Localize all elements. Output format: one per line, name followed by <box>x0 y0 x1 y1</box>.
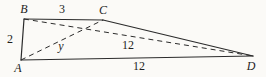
vertex-label-d: D <box>246 59 256 73</box>
diagonal-bd-label: 12 <box>122 38 134 52</box>
quadrilateral-diagram: B C A D 3 2 12 y 12 <box>0 0 266 77</box>
vertex-label-a: A <box>13 61 22 75</box>
vertex-label-c: C <box>99 3 108 17</box>
vertex-label-b: B <box>20 2 28 16</box>
diagonal-ac-label: y <box>57 39 64 53</box>
geometry-figure: B C A D 3 2 12 y 12 <box>0 0 266 77</box>
side-ad-label: 12 <box>133 59 145 73</box>
side-ab-line <box>21 19 24 60</box>
side-bc-line <box>24 19 103 20</box>
side-ab-label: 2 <box>7 32 13 46</box>
side-bc-label: 3 <box>59 2 65 16</box>
